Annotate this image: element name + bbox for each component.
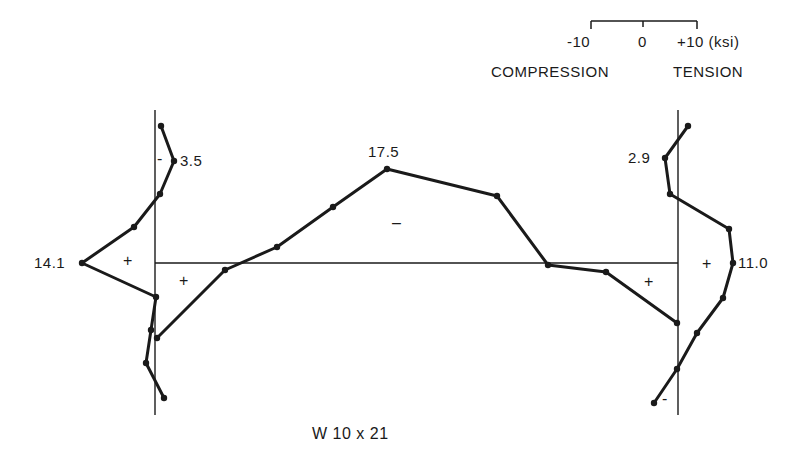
left-flange-minus-sign: - [157, 150, 162, 168]
left-flange-tension-value: 14.1 [34, 254, 65, 271]
data-point [603, 269, 609, 275]
data-point [674, 320, 680, 326]
data-point [171, 158, 177, 164]
data-point [720, 295, 726, 301]
left-flange-plus-sign: + [123, 252, 132, 270]
data-point [694, 330, 700, 336]
data-point [79, 260, 85, 266]
section-designation: W 10 x 21 [312, 425, 389, 443]
data-point [545, 262, 551, 268]
data-point [143, 360, 149, 366]
data-point [330, 204, 336, 210]
data-point [274, 244, 280, 250]
right-flange-compression-value: 2.9 [628, 149, 650, 166]
scale-tick-zero: 0 [638, 33, 647, 50]
data-point [154, 335, 160, 341]
web-compression-value: 17.5 [368, 143, 399, 160]
web-right-plus-sign: + [644, 273, 653, 291]
right-flange-stress-curve [654, 126, 733, 403]
web-left-plus-sign: + [179, 272, 188, 290]
right-flange-tension-value: 11.0 [738, 254, 768, 271]
data-point [667, 191, 673, 197]
data-point [148, 327, 154, 333]
stress-scale-bar [591, 21, 697, 29]
data-point [726, 226, 732, 232]
compression-label: COMPRESSION [491, 63, 609, 80]
data-point [157, 191, 163, 197]
data-point [384, 166, 390, 172]
scale-tick-pos10-unit: +10 (ksi) [677, 33, 739, 50]
data-point [685, 123, 691, 129]
scale-tick-neg10: -10 [567, 33, 590, 50]
data-point [158, 123, 164, 129]
right-flange-minus-sign: - [662, 390, 667, 408]
data-point [131, 224, 137, 230]
web-stress-curve [157, 169, 677, 338]
data-point [651, 400, 657, 406]
data-point [161, 395, 167, 401]
left-flange-compression-value: 3.5 [180, 152, 202, 169]
data-point [222, 267, 228, 273]
data-point [494, 193, 500, 199]
right-flange-plus-sign: + [702, 255, 711, 273]
tension-label: TENSION [673, 63, 743, 80]
data-point [153, 294, 159, 300]
data-point [730, 260, 736, 266]
web-minus-sign: – [392, 214, 401, 232]
data-point [662, 155, 668, 161]
data-point [674, 366, 680, 372]
section-reference-axes [155, 110, 678, 415]
